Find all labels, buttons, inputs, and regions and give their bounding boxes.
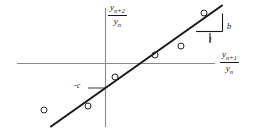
y-axis-fraction: yn+2 yn bbox=[108, 3, 127, 29]
x-axis-fraction: yn+1 yn bbox=[220, 50, 239, 76]
x-axis-numerator: yn+1 bbox=[220, 50, 239, 62]
x-axis-denominator: yn bbox=[220, 62, 239, 75]
intercept-annotation: -c bbox=[74, 82, 80, 90]
y-axis-num-subscript: n+2 bbox=[114, 7, 125, 14]
slope-run-annotation: 1 bbox=[208, 36, 212, 45]
data-point bbox=[178, 43, 184, 49]
fit-line bbox=[51, 6, 222, 127]
x-axis-num-subscript: n+1 bbox=[226, 54, 237, 61]
y-axis-den-subscript: n bbox=[118, 21, 121, 28]
x-axis-den-subscript: n bbox=[230, 68, 233, 75]
x-axis-label: yn+1 yn bbox=[220, 50, 239, 76]
y-axis-numerator: yn+2 bbox=[108, 3, 127, 15]
scatter-plot-figure: yn+2 yn yn+1 yn -c b 1 bbox=[0, 0, 258, 139]
data-point bbox=[112, 74, 118, 80]
data-point bbox=[85, 103, 91, 109]
data-point bbox=[201, 10, 207, 16]
slope-rise-annotation: b bbox=[227, 22, 231, 31]
y-axis-denominator: yn bbox=[108, 15, 127, 28]
y-axis-label: yn+2 yn bbox=[108, 3, 127, 29]
data-point bbox=[41, 107, 47, 113]
